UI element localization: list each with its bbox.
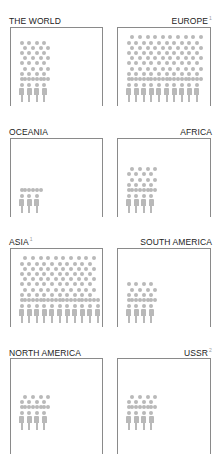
population-dot [39, 267, 43, 271]
population-dot [42, 272, 46, 276]
population-dot [130, 46, 134, 50]
population-dot [168, 46, 172, 50]
population-dot [20, 293, 24, 297]
population-dot [138, 167, 142, 171]
panel-frame [10, 138, 103, 217]
population-dot [73, 262, 77, 266]
population-dot [130, 67, 134, 71]
population-dot [153, 67, 157, 71]
population-dot [153, 395, 157, 399]
population-dot [176, 35, 180, 39]
population-dot [142, 172, 146, 176]
population-dot [27, 72, 31, 76]
panel-frame [10, 27, 103, 106]
population-dot [157, 72, 161, 76]
population-dot [54, 288, 58, 292]
population-dot [180, 72, 184, 76]
population-dot [46, 277, 50, 281]
population-dot [157, 61, 161, 65]
population-dot [23, 46, 27, 50]
population-dot [153, 56, 157, 60]
population-dot [35, 188, 39, 192]
panel-label-text: AFRICA [180, 127, 212, 137]
population-dot [165, 77, 169, 81]
population-dot [20, 282, 24, 286]
population-dot [92, 256, 96, 260]
population-dot [134, 72, 138, 76]
population-dot [35, 262, 39, 266]
population-dot [23, 56, 27, 60]
population-dot [187, 61, 191, 65]
population-dot [23, 288, 27, 292]
population-dot [46, 77, 50, 81]
population-dot [27, 51, 31, 55]
panel-ussr: USSR2 [117, 348, 209, 453]
population-dot [191, 46, 195, 50]
population-dot [20, 400, 24, 404]
population-dot [191, 56, 195, 60]
population-dot [23, 267, 27, 271]
population-dot [134, 298, 138, 302]
population-dot [42, 293, 46, 297]
population-dot [153, 288, 157, 292]
population-dot [199, 46, 203, 50]
population-dot [65, 262, 69, 266]
population-dot [138, 46, 142, 50]
population-dot [142, 41, 146, 45]
population-dot [157, 77, 161, 81]
population-dot [35, 400, 39, 404]
population-dot [199, 35, 203, 39]
population-dot [127, 405, 131, 409]
population-dot [127, 293, 131, 297]
population-dot [146, 67, 150, 71]
panel-frame [117, 27, 211, 106]
population-dot [184, 46, 188, 50]
panel-south-america: SOUTH AMERICA [117, 237, 209, 326]
population-dot [127, 298, 131, 302]
population-dot [39, 67, 43, 71]
population-dot [61, 288, 65, 292]
population-dot [142, 183, 146, 187]
population-dot [195, 51, 199, 55]
population-dot [195, 77, 199, 81]
population-dot [176, 56, 180, 60]
population-dot [69, 267, 73, 271]
population-dot [35, 77, 39, 81]
population-dot [23, 277, 27, 281]
population-dot [20, 61, 24, 65]
population-dot [80, 293, 84, 297]
panel-frame [117, 358, 211, 454]
population-dot [46, 405, 50, 409]
population-dot [35, 61, 39, 65]
panel-asia: ASIA1 [10, 237, 101, 326]
population-dot [142, 188, 146, 192]
population-dot [96, 298, 100, 302]
population-dot [134, 77, 138, 81]
population-dot [168, 56, 172, 60]
population-dot [142, 282, 146, 286]
population-dot [191, 35, 195, 39]
population-dot [153, 405, 157, 409]
population-dot [146, 178, 150, 182]
population-dot [142, 405, 146, 409]
population-dot [35, 405, 39, 409]
population-dot [58, 293, 62, 297]
population-dot [130, 167, 134, 171]
population-dot [146, 46, 150, 50]
population-dot [23, 395, 27, 399]
panel-frame [117, 248, 211, 327]
panel-label: AFRICA [180, 127, 212, 137]
population-dot [172, 72, 176, 76]
population-dot [165, 72, 169, 76]
population-dot [146, 167, 150, 171]
population-dot [27, 188, 31, 192]
population-dot [161, 56, 165, 60]
population-dot [27, 282, 31, 286]
population-dot [138, 35, 142, 39]
population-dot [142, 293, 146, 297]
population-dot [149, 51, 153, 55]
population-dot [187, 51, 191, 55]
population-dot [31, 395, 35, 399]
footnote-marker: 2 [209, 347, 212, 353]
population-dot [127, 282, 131, 286]
